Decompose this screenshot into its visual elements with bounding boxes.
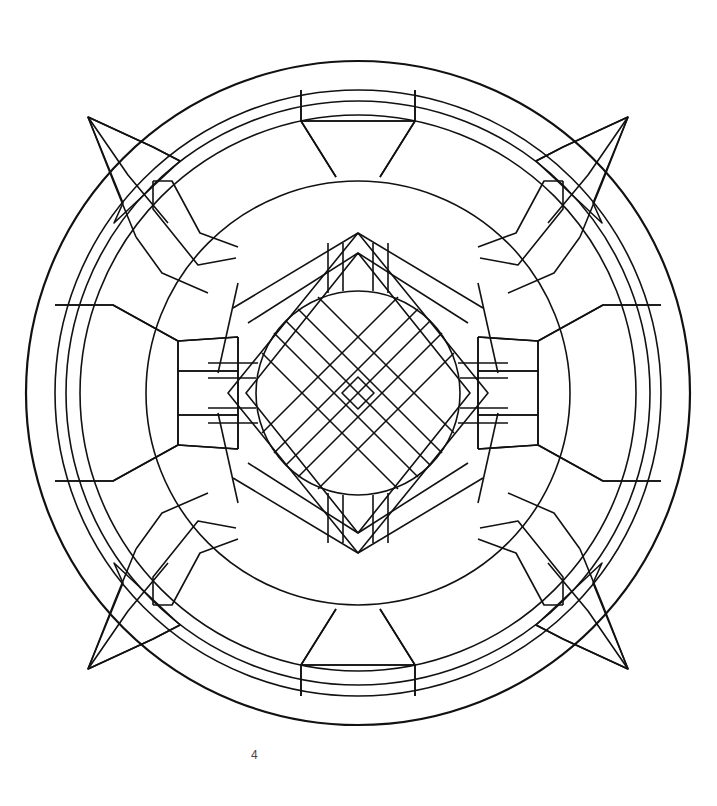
page-number: 4 bbox=[251, 748, 258, 762]
center-weave bbox=[262, 297, 454, 489]
mandala-drawing bbox=[0, 0, 717, 806]
